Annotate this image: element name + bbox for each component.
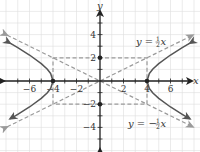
svg-text:x: x xyxy=(161,36,167,47)
equation-upper-label: y = 1 2 x xyxy=(135,35,167,49)
key-point xyxy=(145,79,150,84)
key-point xyxy=(98,56,103,61)
svg-text:y = −: y = − xyxy=(127,118,157,129)
key-point xyxy=(51,79,56,84)
key-point xyxy=(98,102,103,107)
svg-text:2: 2 xyxy=(156,123,160,130)
svg-text:y =: y = xyxy=(135,36,153,47)
y-tick-label: 4 xyxy=(90,30,96,40)
x-tick-label: −2 xyxy=(70,84,83,94)
x-tick-label: 2 xyxy=(121,84,127,94)
y-tick-label: −2 xyxy=(83,99,96,109)
y-axis-label: y xyxy=(96,0,103,11)
x-tick-label: 6 xyxy=(168,84,174,94)
svg-text:2: 2 xyxy=(156,41,160,48)
x-axis-label: x xyxy=(193,75,199,86)
x-tick-label: −6 xyxy=(23,84,37,94)
hyperbola-chart: −6−4−224642−2−4 x y y = 1 2 x y = − 1 2 … xyxy=(0,0,200,152)
y-tick-label: −4 xyxy=(83,122,97,132)
equation-lower-label: y = − 1 2 x xyxy=(127,117,167,131)
y-tick-label: 2 xyxy=(90,53,96,63)
svg-text:x: x xyxy=(161,118,167,129)
